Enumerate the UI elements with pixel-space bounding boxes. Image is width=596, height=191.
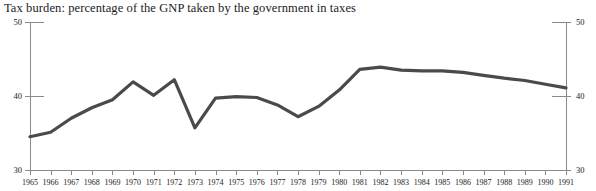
data-line-tax-burden (30, 67, 566, 137)
plot-area (0, 0, 596, 191)
chart-svg (0, 0, 596, 191)
axes-group (25, 22, 571, 175)
y-axis-right-tick-label-30: 30 (576, 165, 592, 175)
y-axis-left-tick-label-30: 30 (6, 165, 22, 175)
x-axis-tick-label-1991: 1991 (553, 178, 579, 187)
y-axis-right-tick-label-50: 50 (576, 17, 592, 27)
chart-page: Tax burden: percentage of the GNP taken … (0, 0, 596, 191)
y-axis-left-tick-label-50: 50 (6, 17, 22, 27)
data-series-group (30, 67, 566, 137)
y-axis-left-tick-label-40: 40 (6, 91, 22, 101)
y-axis-right-tick-label-40: 40 (576, 91, 592, 101)
